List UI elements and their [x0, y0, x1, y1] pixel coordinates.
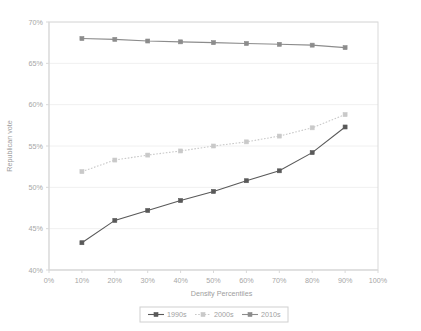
data-point-1990s-10	[80, 241, 84, 245]
data-point-1990s-20	[113, 218, 117, 222]
data-point-1990s-50	[212, 189, 216, 193]
series-2010s	[80, 37, 347, 50]
data-point-2000s-30	[146, 153, 150, 157]
legend-label-2000s[interactable]: 2000s	[214, 310, 234, 319]
data-point-1990s-30	[146, 208, 150, 212]
x-tick-label: 0%	[44, 276, 55, 285]
x-axis-title: Density Percentiles	[191, 289, 253, 298]
x-tick-label: 80%	[305, 276, 320, 285]
data-point-2010s-90	[343, 46, 347, 50]
series-2000s	[80, 113, 347, 174]
data-point-2000s-60	[244, 140, 248, 144]
y-tick-label: 55%	[29, 142, 44, 151]
x-tick-label: 10%	[75, 276, 90, 285]
x-tick-label: 100%	[369, 276, 388, 285]
y-tick-label: 60%	[29, 100, 44, 109]
series-group	[80, 37, 347, 245]
data-point-2000s-50	[212, 144, 216, 148]
legend-marker-1990s	[154, 313, 158, 317]
data-point-2010s-10	[80, 37, 84, 41]
legend-marker-2000s	[201, 313, 205, 317]
data-point-2000s-20	[113, 158, 117, 162]
x-tick-label: 40%	[173, 276, 188, 285]
data-point-2010s-30	[146, 39, 150, 43]
y-axis-title: Republican vote	[5, 120, 14, 172]
legend-label-1990s[interactable]: 1990s	[167, 310, 187, 319]
data-point-2010s-20	[113, 37, 117, 41]
y-tick-label: 70%	[29, 18, 44, 27]
chart-container: 40%45%50%55%60%65%70%0%10%20%30%40%50%60…	[0, 0, 421, 331]
y-tick-label: 40%	[29, 266, 44, 275]
series-line-2000s	[82, 115, 345, 172]
data-point-1990s-70	[277, 169, 281, 173]
y-tick-label: 65%	[29, 59, 44, 68]
data-point-2000s-90	[343, 113, 347, 117]
x-tick-label: 30%	[141, 276, 156, 285]
data-point-2000s-80	[310, 126, 314, 130]
x-tick-label: 90%	[338, 276, 353, 285]
data-point-1990s-80	[310, 151, 314, 155]
x-tick-label: 50%	[206, 276, 221, 285]
y-tick-label: 45%	[29, 224, 44, 233]
data-point-2000s-40	[179, 149, 183, 153]
line-chart: 40%45%50%55%60%65%70%0%10%20%30%40%50%60…	[0, 0, 421, 331]
data-point-1990s-40	[179, 199, 183, 203]
y-axis-ticks: 40%45%50%55%60%65%70%	[29, 18, 49, 275]
x-tick-label: 70%	[272, 276, 287, 285]
data-point-2000s-70	[277, 134, 281, 138]
data-point-2010s-50	[212, 41, 216, 45]
data-point-1990s-90	[343, 125, 347, 129]
data-point-2010s-40	[179, 40, 183, 44]
series-1990s	[80, 125, 347, 245]
y-tick-label: 50%	[29, 183, 44, 192]
data-point-2010s-60	[244, 41, 248, 45]
data-point-1990s-60	[244, 179, 248, 183]
legend-marker-2010s	[248, 313, 252, 317]
data-point-2000s-10	[80, 170, 84, 174]
data-point-2010s-70	[277, 42, 281, 46]
x-tick-label: 20%	[108, 276, 123, 285]
legend-label-2010s[interactable]: 2010s	[261, 310, 281, 319]
legend: 1990s2000s2010s	[140, 307, 288, 322]
x-axis-ticks: 0%10%20%30%40%50%60%70%80%90%100%	[44, 270, 388, 285]
data-point-2010s-80	[310, 43, 314, 47]
x-tick-label: 60%	[239, 276, 254, 285]
